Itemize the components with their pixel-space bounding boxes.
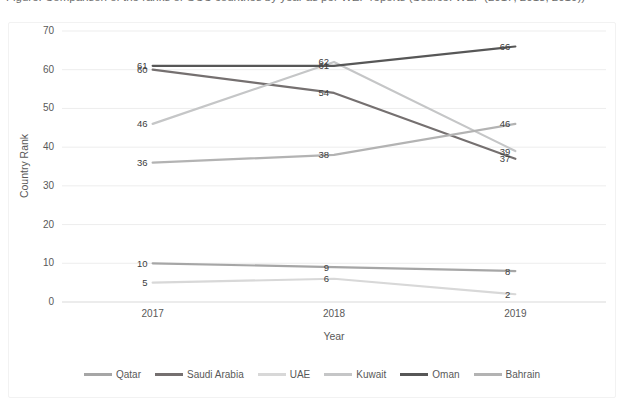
data-label-bahrain-2017: 36 xyxy=(137,157,148,168)
data-label-uae-2017: 5 xyxy=(142,277,147,288)
y-tick-label-0: 0 xyxy=(14,296,54,308)
legend-item-oman: Oman xyxy=(400,369,459,380)
data-label-uae-2019: 2 xyxy=(505,289,510,300)
x-tick-label-2018: 2018 xyxy=(304,308,364,320)
series-line-qatar xyxy=(153,263,516,271)
legend-label-uae: UAE xyxy=(290,369,311,380)
legend-swatch-oman xyxy=(400,373,428,376)
data-label-kuwait-2017: 46 xyxy=(137,118,148,129)
x-tick-label-2019: 2019 xyxy=(485,308,545,320)
y-tick-label-50: 50 xyxy=(14,102,54,114)
series-line-kuwait xyxy=(153,62,516,151)
legend-label-oman: Oman xyxy=(432,369,459,380)
legend-swatch-qatar xyxy=(84,373,112,376)
data-label-oman-2018: 61 xyxy=(318,60,329,71)
legend-item-kuwait: Kuwait xyxy=(324,369,386,380)
legend-swatch-bahrain xyxy=(474,373,502,376)
data-label-uae-2018: 6 xyxy=(324,273,329,284)
data-label-oman-2017: 61 xyxy=(137,60,148,71)
y-tick-label-60: 60 xyxy=(14,64,54,76)
legend-label-kuwait: Kuwait xyxy=(356,369,386,380)
x-axis-title: Year xyxy=(62,330,606,342)
data-label-kuwait-2019: 39 xyxy=(500,146,511,157)
legend: QatarSaudi ArabiaUAEKuwaitOmanBahrain xyxy=(0,369,624,380)
data-label-bahrain-2018: 38 xyxy=(318,149,329,160)
legend-label-bahrain: Bahrain xyxy=(506,369,540,380)
chart-container: Figure: Comparison of the ranks of GCC c… xyxy=(0,0,624,401)
y-tick-label-70: 70 xyxy=(14,25,54,37)
data-label-qatar-2018: 9 xyxy=(324,262,329,273)
data-label-bahrain-2019: 46 xyxy=(500,118,511,129)
series-line-bahrain xyxy=(153,124,516,163)
y-tick-label-20: 20 xyxy=(14,219,54,231)
legend-label-qatar: Qatar xyxy=(116,369,141,380)
legend-swatch-saudi-arabia xyxy=(155,373,183,376)
x-tick-label-2017: 2017 xyxy=(123,308,183,320)
data-label-qatar-2019: 8 xyxy=(505,266,510,277)
legend-item-qatar: Qatar xyxy=(84,369,141,380)
y-axis-title: Country Rank xyxy=(18,116,30,216)
legend-item-bahrain: Bahrain xyxy=(474,369,540,380)
data-label-oman-2019: 66 xyxy=(500,41,511,52)
series-line-saudi-arabia xyxy=(153,70,516,159)
series-line-uae xyxy=(153,279,516,294)
legend-swatch-uae xyxy=(258,373,286,376)
legend-item-saudi-arabia: Saudi Arabia xyxy=(155,369,244,380)
y-tick-label-10: 10 xyxy=(14,257,54,269)
data-label-qatar-2017: 10 xyxy=(137,258,148,269)
data-label-saudi-arabia-2018: 54 xyxy=(318,87,329,98)
legend-label-saudi-arabia: Saudi Arabia xyxy=(187,369,244,380)
legend-item-uae: UAE xyxy=(258,369,311,380)
legend-swatch-kuwait xyxy=(324,373,352,376)
